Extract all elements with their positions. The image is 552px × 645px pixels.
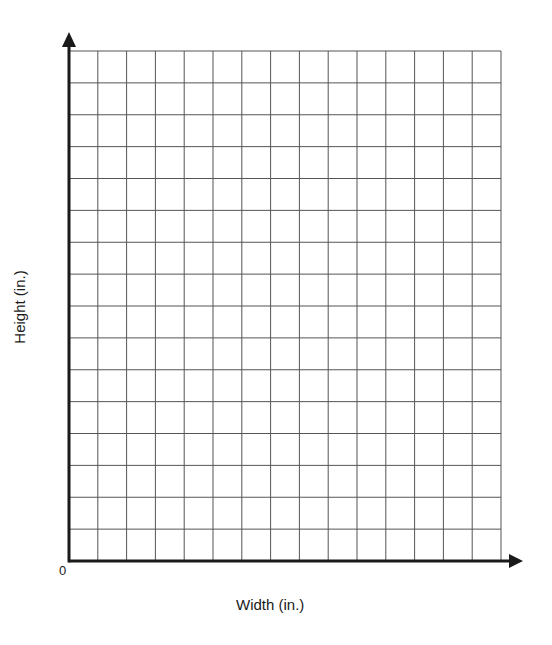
x-axis-arrow-icon <box>509 554 523 568</box>
y-axis-arrow-icon <box>62 32 76 47</box>
x-axis-label: Width (in.) <box>236 596 304 613</box>
origin-label: 0 <box>59 563 66 578</box>
grid-lines <box>69 51 501 561</box>
y-axis-label: Height (in.) <box>11 270 28 343</box>
coordinate-grid <box>0 0 552 645</box>
axes <box>62 32 523 568</box>
